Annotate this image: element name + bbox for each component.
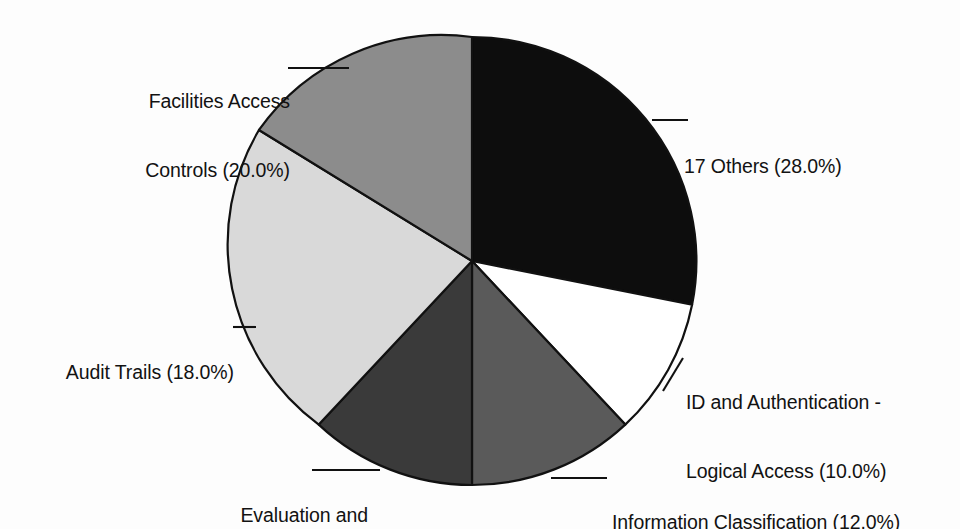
pie-slices [228, 35, 697, 485]
pie-chart-figure: Facilities Access Controls (20.0%) 17 Ot… [0, 0, 960, 529]
pie-label-17-others-line1: 17 Others (28.0%) [684, 155, 924, 178]
pie-label-17-others: 17 Others (28.0%) [684, 109, 924, 224]
pie-label-information-classification: Information Classification (12.0%) [612, 465, 932, 529]
pie-label-audit-trails: Audit Trails (18.0%) [44, 315, 234, 430]
pie-label-evaluation-line1: Evaluation and [176, 504, 368, 527]
pie-label-facilities-line1: Facilities Access [122, 90, 290, 113]
pie-slice-17-others[interactable] [472, 37, 696, 305]
pie-label-facilities-line2: Controls (20.0%) [122, 159, 290, 182]
pie-label-id-and-authentication-line1: ID and Authentication - [686, 391, 954, 414]
pie-label-information-classification-line1: Information Classification (12.0%) [612, 511, 932, 529]
pie-label-facilities-access-controls: Facilities Access Controls (20.0%) [122, 44, 290, 228]
pie-label-audit-trails-line1: Audit Trails (18.0%) [44, 361, 234, 384]
pie-label-evaluation-and-assessment: Evaluation and Assessment (12.0%) [176, 458, 368, 529]
